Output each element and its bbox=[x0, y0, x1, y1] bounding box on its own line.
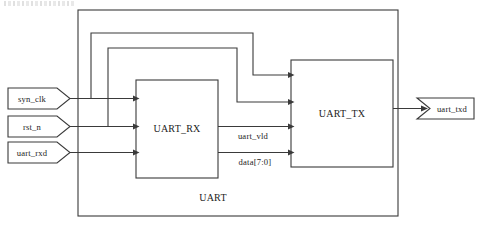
label-port-uart-rxd: uart_rxd bbox=[17, 148, 48, 158]
label-port-uart-txd: uart_txd bbox=[437, 104, 468, 114]
label-signal-uart-vld: uart_vld bbox=[238, 131, 269, 141]
label-port-syn-clk: syn_clk bbox=[18, 94, 47, 104]
label-module-uart: UART bbox=[199, 192, 226, 203]
label-block-uart-tx: UART_TX bbox=[319, 108, 366, 119]
uart-block-diagram: syn_clk rst_n uart_rxd uart_txd UART_RX … bbox=[0, 0, 478, 226]
label-port-rst-n: rst_n bbox=[23, 122, 42, 132]
diagram-canvas: syn_clk rst_n uart_rxd uart_txd UART_RX … bbox=[0, 0, 478, 226]
scan-artifact bbox=[4, 1, 74, 6]
label-signal-data-bus: data[7:0] bbox=[239, 157, 272, 167]
label-block-uart-rx: UART_RX bbox=[154, 123, 201, 134]
